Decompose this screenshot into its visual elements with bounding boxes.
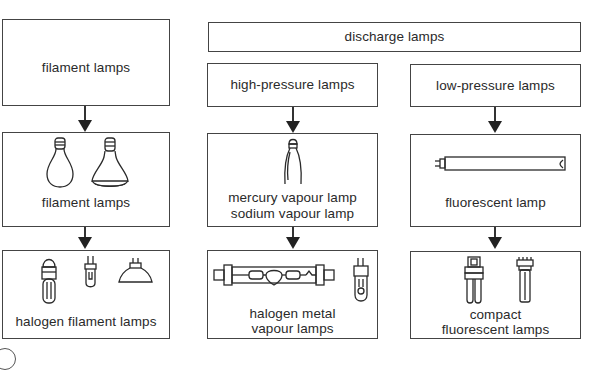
filament-lamps-label: filament lamps <box>3 195 169 211</box>
halogen-pin-capsule-icon <box>83 255 99 289</box>
filament-lamps-header-label: filament lamps <box>3 60 169 76</box>
high-pressure-lamps-box: high-pressure lamps <box>207 63 378 107</box>
fluorescent-tube-icon <box>435 155 567 173</box>
low-pressure-lamps-box: low-pressure lamps <box>410 64 581 107</box>
sodium-vapour-label: sodium vapour lamp <box>208 206 377 222</box>
fluorescent-lamp-box: fluorescent lamp <box>410 134 581 227</box>
discharge-lamps-header-label: discharge lamps <box>209 29 580 45</box>
compact-fluorescent-box: compact fluorescent lamps <box>410 251 581 339</box>
filament-lamps-box: filament lamps <box>2 132 170 227</box>
fluorescent-lamp-label: fluorescent lamp <box>411 195 580 211</box>
filament-lamps-header-box: filament lamps <box>2 19 170 106</box>
double-ended-metal-halide-icon <box>214 261 334 289</box>
halogen-filament-lamps-label: halogen filament lamps <box>3 314 169 330</box>
halogen-filament-lamps-box: halogen filament lamps <box>2 250 170 339</box>
single-ended-metal-halide-icon <box>351 257 371 303</box>
discharge-lamps-header-box: discharge lamps <box>208 22 581 52</box>
mercury-sodium-vapour-box: mercury vapour lamp sodium vapour lamp <box>207 133 378 227</box>
compact-label-line2: fluorescent lamps <box>411 322 580 338</box>
ellipsoid-discharge-bulb-icon <box>281 136 305 186</box>
compact-fluorescent-single-tube-icon <box>515 256 535 306</box>
low-pressure-lamps-label: low-pressure lamps <box>411 78 580 94</box>
compact-label-line1: compact <box>411 307 580 323</box>
halogen-metal-vapour-box: halogen metal vapour lamps <box>207 250 378 339</box>
halogen-reflector-icon <box>118 257 154 283</box>
high-pressure-lamps-label: high-pressure lamps <box>208 77 377 93</box>
figure-marker-circle <box>0 348 16 370</box>
compact-fluorescent-twin-tube-icon <box>463 256 485 306</box>
reflector-bulb-icon <box>90 137 130 191</box>
halogen-capsule-with-base-icon <box>39 255 59 305</box>
halogen-metal-label-line2: vapour lamps <box>208 321 377 337</box>
mercury-vapour-label: mercury vapour lamp <box>208 190 377 206</box>
halogen-metal-label-line1: halogen metal <box>208 306 377 322</box>
standard-bulb-icon <box>45 137 75 189</box>
